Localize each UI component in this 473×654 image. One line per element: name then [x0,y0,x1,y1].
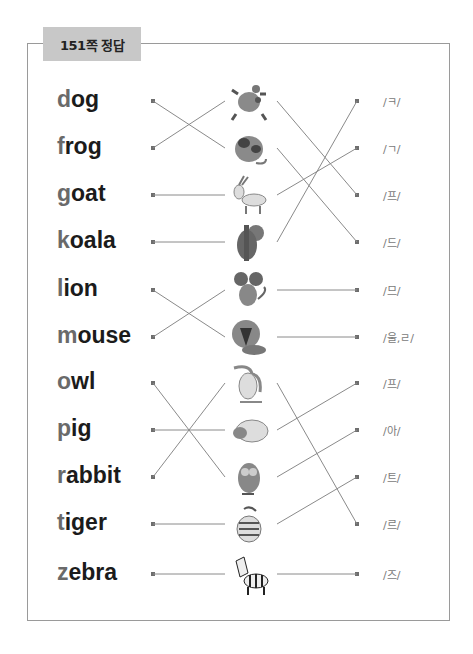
lion-icon [226,316,272,358]
pronunciation-label: /프/ [383,187,400,203]
right-connector [277,148,357,242]
pronunciation-label: /ㅋ/ [383,93,400,109]
word-rest: oala [70,227,116,253]
right-connector [277,477,357,524]
word-initial: z [57,559,69,585]
word-owl: owl [57,370,95,393]
word-rest: abbit [66,462,121,488]
zebra-icon [226,553,272,595]
word-frog: frog [57,135,102,158]
right-connector [277,101,357,195]
pronunciation-label: /드/ [383,234,400,250]
word-rest: ion [63,275,98,301]
word-lion: lion [57,277,98,300]
word-dog: dog [57,88,99,111]
mouse-icon [226,269,272,311]
word-initial: p [57,415,71,441]
pronunciation-label: /프/ [383,375,400,391]
word-rest: iger [65,509,107,535]
word-rest: ouse [77,322,131,348]
word-pig: pig [57,417,92,440]
word-mouse: mouse [57,324,131,347]
pronunciation-label: /아/ [383,422,400,438]
word-initial: f [57,133,65,159]
word-rest: wl [71,368,95,394]
frog-icon [226,80,272,122]
pronunciation-label: /즈/ [383,566,400,582]
word-rest: ebra [69,559,118,585]
pronunciation-label: /ㄱ/ [383,140,400,156]
pronunciation-label: /므/ [383,282,400,298]
word-goat: goat [57,182,106,205]
word-initial: m [57,322,77,348]
word-initial: o [57,368,71,394]
word-initial: t [57,509,65,535]
tiger-icon [226,503,272,545]
rabbit-icon [226,362,272,404]
word-rest: rog [65,133,102,159]
word-rest: ig [71,415,91,441]
pronunciation-label: /울,ㄹ/ [383,329,414,345]
right-connector [277,430,357,477]
dog-icon [226,127,272,169]
word-initial: k [57,227,70,253]
word-zebra: zebra [57,561,117,584]
koala-icon [226,221,272,263]
word-initial: r [57,462,66,488]
pig-icon [226,409,272,451]
pronunciation-label: /트/ [383,469,400,485]
word-tiger: tiger [57,511,107,534]
pronunciation-label: /르/ [383,516,400,532]
right-connector [277,101,357,242]
word-rest: oat [71,180,106,206]
owl-icon [226,456,272,498]
right-connector [277,383,357,430]
goat-icon [226,174,272,216]
word-initial: g [57,180,71,206]
word-initial: d [57,86,71,112]
word-koala: koala [57,229,116,252]
word-rabbit: rabbit [57,464,121,487]
word-rest: og [71,86,99,112]
